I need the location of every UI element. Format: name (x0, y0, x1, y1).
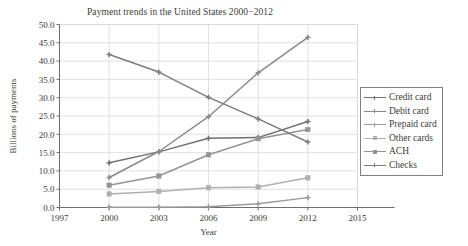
x-axis-tick-label: 1997 (51, 213, 70, 223)
series-marker (206, 186, 210, 190)
legend-label-other-cards: Other cards (389, 132, 433, 146)
legend-item-credit-card[interactable]: Credit card (364, 91, 437, 105)
y-axis-title: Billions of payments (8, 78, 18, 153)
legend-item-ach[interactable]: ACH (364, 145, 437, 159)
series-marker (306, 127, 310, 131)
y-axis-tick-label: 50.0 (39, 20, 55, 30)
legend-marker-ach (364, 147, 386, 157)
chart-figure: Payment trends in the United States 2000… (0, 0, 468, 246)
legend-label-credit-card: Credit card (389, 91, 431, 105)
chart-legend: Credit card Debit card Prepaid card Othe… (360, 87, 443, 176)
x-axis-tick-label: 2006 (200, 213, 219, 223)
series-marker (157, 174, 161, 178)
legend-item-checks[interactable]: Checks (364, 159, 437, 173)
legend-label-checks: Checks (389, 159, 417, 173)
x-axis-tick-label: 2003 (150, 213, 169, 223)
y-axis-tick-label: 40.0 (39, 56, 55, 66)
legend-marker-prepaid-card (364, 120, 386, 130)
x-axis-tick-label: 2012 (299, 213, 317, 223)
series-marker (107, 192, 111, 196)
legend-label-prepaid-card: Prepaid card (389, 118, 437, 132)
y-axis-tick-label: 5.0 (43, 184, 55, 194)
series-marker (306, 176, 310, 180)
series-marker (107, 183, 111, 187)
y-axis-tick-label: 30.0 (39, 93, 55, 103)
y-axis-tick-label: 15.0 (39, 148, 55, 158)
legend-item-debit-card[interactable]: Debit card (364, 105, 437, 119)
legend-item-other-cards[interactable]: Other cards (364, 132, 437, 146)
y-axis-tick-label: 0.0 (43, 203, 55, 213)
legend-label-ach: ACH (389, 145, 409, 159)
y-axis-tick-label: 20.0 (39, 130, 55, 140)
legend-marker-other-cards (364, 133, 386, 143)
y-axis-tick-label: 45.0 (39, 38, 55, 48)
y-axis-tick-label: 10.0 (39, 166, 55, 176)
legend-marker-credit-card (364, 93, 386, 103)
legend-label-debit-card: Debit card (389, 105, 429, 119)
x-axis-tick-label: 2015 (349, 213, 368, 223)
legend-item-prepaid-card[interactable]: Prepaid card (364, 118, 437, 132)
series-marker (256, 185, 260, 189)
x-axis-tick-label: 2000 (100, 213, 119, 223)
y-axis-tick-label: 25.0 (39, 111, 55, 121)
legend-marker-debit-card (364, 106, 386, 116)
x-axis-tick-label: 2009 (249, 213, 268, 223)
series-marker (157, 189, 161, 193)
series-marker (256, 136, 260, 140)
x-axis-title: Year (200, 227, 217, 237)
y-axis-tick-label: 35.0 (39, 75, 55, 85)
legend-marker-checks (364, 160, 386, 170)
series-marker (206, 153, 210, 157)
